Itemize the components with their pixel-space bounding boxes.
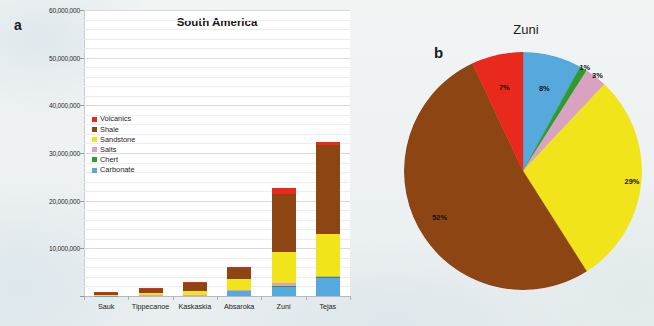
gridline xyxy=(84,39,350,40)
bar-column xyxy=(139,6,163,296)
bar-segment-shale xyxy=(139,288,163,293)
panel-label-a: a xyxy=(14,17,22,33)
pie-chart-title: Zuni xyxy=(398,22,654,37)
gridline xyxy=(84,58,350,59)
bar-segment-sandstone xyxy=(94,295,118,296)
bar-segment-salts xyxy=(227,290,251,291)
gridline xyxy=(84,286,350,287)
bar-segment-sandstone xyxy=(139,293,163,295)
bar-column xyxy=(183,6,207,296)
x-axis-label: Kaskaskia xyxy=(178,302,211,311)
bar-segment-volcanics xyxy=(227,267,251,268)
gridline xyxy=(84,210,350,211)
gridline xyxy=(84,267,350,268)
legend-swatch-icon xyxy=(92,168,97,173)
bar-segment-sandstone xyxy=(316,234,340,275)
bar-column xyxy=(316,6,340,296)
gridline xyxy=(84,258,350,259)
bar-segment-shale xyxy=(316,145,340,234)
legend-item-label: Volcanics xyxy=(100,115,131,122)
bar-segment-volcanics xyxy=(183,282,207,283)
legend-swatch-icon xyxy=(92,117,97,122)
y-axis-tick-label: 30,000,000 xyxy=(24,150,80,157)
bar-segment-volcanics xyxy=(139,288,163,289)
gridline xyxy=(84,201,350,202)
bar-segment-salts xyxy=(272,283,296,286)
bar-segment-carbonate xyxy=(227,291,251,296)
y-axis-tick-label: 20,000,000 xyxy=(24,197,80,204)
bar-chart-panel: South America 10,000,00020,000,00030,000… xyxy=(24,6,354,306)
y-axis-tick-label: 50,000,000 xyxy=(24,54,80,61)
pie-label-carbonate: 8% xyxy=(539,84,550,93)
y-axis-tick-mark xyxy=(80,248,84,249)
legend-item: Chert xyxy=(92,155,135,165)
x-axis-tick-mark xyxy=(173,296,174,300)
x-axis-label: Tejas xyxy=(319,302,336,311)
bar-segment-shale xyxy=(227,268,251,279)
gridline xyxy=(84,229,350,230)
x-axis-label: Absaroka xyxy=(224,302,254,311)
bar-segment-sandstone xyxy=(227,279,251,290)
bar-column xyxy=(227,6,251,296)
legend-swatch-icon xyxy=(92,137,97,142)
x-axis-label: Zuni xyxy=(277,302,291,311)
x-axis-tick-mark xyxy=(84,296,85,300)
legend-item-label: Shale xyxy=(100,126,119,133)
bar-segment-sandstone xyxy=(272,252,296,283)
bar-chart-legend: VolcanicsShaleSandstoneSaltsChertCarbona… xyxy=(92,114,135,175)
gridline xyxy=(84,220,350,221)
legend-item: Carbonate xyxy=(92,165,135,175)
x-axis-tick-mark xyxy=(128,296,129,300)
legend-item: Volcanics xyxy=(92,114,135,124)
bar-segment-shale xyxy=(183,282,207,291)
pie-graphic xyxy=(404,52,642,290)
pie-label-sandstone: 29% xyxy=(625,177,640,186)
bar-column xyxy=(272,6,296,296)
bar-segment-carbonate xyxy=(272,287,296,296)
gridline xyxy=(84,105,350,106)
x-axis-label: Tippecanoe xyxy=(132,302,169,311)
gridline xyxy=(84,10,350,11)
pie-label-chert: 1% xyxy=(579,62,590,71)
bar-segment-salts xyxy=(183,295,207,296)
legend-item-label: Sandstone xyxy=(100,136,135,143)
y-axis-tick-mark xyxy=(80,201,84,202)
x-axis-tick-mark xyxy=(217,296,218,300)
y-axis-tick-mark xyxy=(80,10,84,11)
pie-label-salts: 3% xyxy=(592,71,603,80)
gridline xyxy=(84,191,350,192)
bar-segment-salts xyxy=(94,295,118,296)
bar-segment-chert xyxy=(272,286,296,287)
bar-segment-salts xyxy=(316,276,340,277)
y-axis-tick-label: 40,000,000 xyxy=(24,102,80,109)
gridline xyxy=(84,277,350,278)
y-axis-tick-label: 10,000,000 xyxy=(24,245,80,252)
bar-segment-salts xyxy=(139,295,163,296)
y-axis-tick-mark xyxy=(80,105,84,106)
bar-chart-title: South America xyxy=(84,16,350,28)
x-axis-tick-mark xyxy=(350,296,351,300)
bar-segment-chert xyxy=(316,277,340,278)
pie-label-volcanics: 7% xyxy=(499,83,510,92)
bar-segment-sandstone xyxy=(183,291,207,295)
legend-item: Salts xyxy=(92,145,135,155)
x-axis-tick-mark xyxy=(261,296,262,300)
gridline xyxy=(84,20,350,21)
gridline xyxy=(84,182,350,183)
gridline xyxy=(84,248,350,249)
x-axis-tick-mark xyxy=(306,296,307,300)
x-axis-label: Sauk xyxy=(98,302,114,311)
y-axis-tick-mark xyxy=(80,58,84,59)
gridline xyxy=(84,86,350,87)
bar-segment-volcanics xyxy=(272,188,296,195)
pie-label-shale: 52% xyxy=(432,212,447,221)
legend-item-label: Salts xyxy=(100,146,116,153)
bar-segment-shale xyxy=(272,194,296,251)
pie-chart-panel: Zuni 8%1%3%29%52%7% xyxy=(398,0,654,326)
gridline xyxy=(84,29,350,30)
y-axis-tick-label: 60,000,000 xyxy=(24,7,80,14)
legend-item-label: Carbonate xyxy=(100,166,135,173)
legend-swatch-icon xyxy=(92,147,97,152)
bar-segment-carbonate xyxy=(316,277,340,296)
bar-segment-volcanics xyxy=(316,142,340,145)
